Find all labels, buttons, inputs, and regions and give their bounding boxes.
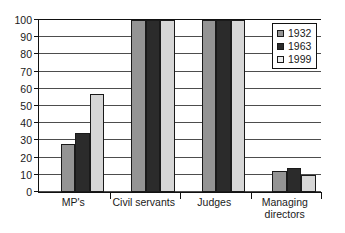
category-separator-tick: [321, 192, 322, 199]
legend-swatch-icon-1999: [277, 56, 284, 63]
category-label-line1: MP's: [38, 196, 109, 208]
legend-label-1963: 1963: [288, 40, 311, 52]
bar-civil-servants-1932: [131, 20, 146, 192]
y-axis-tick-30: [34, 139, 39, 140]
category-label-judges: Judges: [179, 196, 250, 208]
y-axis-label-50: 50: [20, 101, 32, 112]
gridline-100: [39, 19, 321, 20]
y-axis-tick-10: [34, 174, 39, 175]
bar-managing-directors-1999: [301, 175, 316, 192]
y-axis-label-10: 10: [20, 170, 32, 181]
y-axis-tick-70: [34, 71, 39, 72]
y-axis-label-70: 70: [20, 66, 32, 77]
bar-mp-s-1932: [61, 144, 76, 192]
bar-judges-1963: [216, 20, 231, 192]
legend-item-1999: 1999: [277, 53, 311, 65]
y-axis-label-60: 60: [20, 84, 32, 95]
legend-item-1932: 1932: [277, 27, 311, 39]
category-label-mps: MP's: [38, 196, 109, 208]
y-axis-tick-90: [34, 36, 39, 37]
y-axis-tick-50: [34, 105, 39, 106]
bar-civil-servants-1999: [160, 20, 175, 192]
bar-mp-s-1999: [90, 94, 105, 192]
legend-swatch-icon-1932: [277, 30, 284, 37]
category-label-managing-directors: Managing directors: [250, 196, 321, 220]
category-label-line2: directors: [250, 208, 321, 220]
category-label-line1: Civil servants: [109, 196, 180, 208]
y-axis-label-30: 30: [20, 135, 32, 146]
legend-label-1999: 1999: [288, 53, 311, 65]
y-axis-tick-0: [34, 191, 39, 192]
bar-judges-1932: [202, 20, 217, 192]
legend-label-1932: 1932: [288, 27, 311, 39]
y-axis-label-40: 40: [20, 118, 32, 129]
gridline-40: [39, 122, 321, 123]
legend-item-1963: 1963: [277, 40, 311, 52]
y-axis-tick-80: [34, 53, 39, 54]
bar-mp-s-1963: [75, 133, 90, 192]
y-axis-tick-20: [34, 157, 39, 158]
y-axis-label-20: 20: [20, 152, 32, 163]
category-label-civil-servants: Civil servants: [109, 196, 180, 208]
bar-judges-1999: [231, 20, 246, 192]
bar-managing-directors-1932: [272, 171, 287, 193]
gridline-50: [39, 105, 321, 106]
y-axis-label-100: 100: [14, 15, 32, 26]
y-axis-tick-60: [34, 88, 39, 89]
gridline-70: [39, 71, 321, 72]
y-axis-tick-100: [34, 19, 39, 20]
bar-chart-figure: 0102030405060708090100 MP's Civil servan…: [0, 0, 345, 233]
y-axis-label-80: 80: [20, 49, 32, 60]
legend: 1932 1963 1999: [272, 23, 317, 69]
category-label-line1: Judges: [179, 196, 250, 208]
y-axis-label-0: 0: [26, 187, 32, 198]
gridline-60: [39, 88, 321, 89]
bar-civil-servants-1963: [146, 20, 161, 192]
category-label-line1: Managing: [250, 196, 321, 208]
legend-swatch-icon-1963: [277, 43, 284, 50]
y-axis-tick-40: [34, 122, 39, 123]
bar-managing-directors-1963: [287, 168, 302, 192]
y-axis-label-90: 90: [20, 32, 32, 43]
